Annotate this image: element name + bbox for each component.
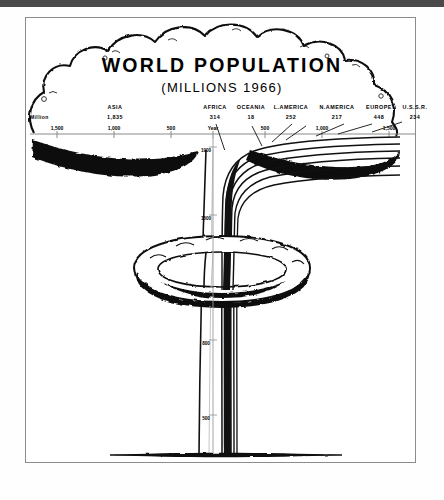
figure-subtitle: (MILLIONS 1966) bbox=[161, 80, 282, 95]
ground-line bbox=[110, 453, 342, 458]
unit-label: Million bbox=[30, 114, 49, 120]
screenshot-stage: WORLD POPULATION (MILLIONS 1966) ASIA 1,… bbox=[0, 0, 444, 500]
region-value-europe: 448 bbox=[374, 114, 385, 120]
figure-title: WORLD POPULATION bbox=[102, 54, 343, 76]
y-tick-1900: 1900 bbox=[201, 148, 212, 153]
x-tick-right-500: 500 bbox=[261, 125, 270, 131]
region-label-africa: AFRICA bbox=[203, 104, 226, 110]
x-tick-left-1500: 1,500 bbox=[51, 125, 64, 131]
region-label-europe: EUROPE bbox=[366, 104, 392, 110]
region-label-n-america: N.AMERICA bbox=[319, 104, 354, 110]
y-tick-1500: 1500 bbox=[201, 216, 212, 221]
world-population-tree-illustration: WORLD POPULATION (MILLIONS 1966) ASIA 1,… bbox=[0, 0, 444, 500]
region-label-oceania: OCEANIA bbox=[237, 104, 265, 110]
region-value-asia: 1,835 bbox=[107, 114, 123, 120]
region-label-asia: ASIA bbox=[108, 104, 123, 110]
x-tick-left-500: 500 bbox=[167, 125, 176, 131]
y-tick-800: 800 bbox=[202, 341, 210, 346]
region-value-l-america: 252 bbox=[286, 114, 297, 120]
region-value-oceania: 18 bbox=[248, 114, 255, 120]
x-tick-left-1000: 1,000 bbox=[108, 125, 121, 131]
region-value-africa: 314 bbox=[210, 114, 221, 120]
region-label-ussr: U.S.S.R. bbox=[403, 104, 428, 110]
region-value-n-america: 217 bbox=[332, 114, 343, 120]
y-tick-500: 500 bbox=[202, 416, 210, 421]
x-tick-right-1000: 1,000 bbox=[316, 125, 329, 131]
region-label-l-america: L.AMERICA bbox=[274, 104, 308, 110]
region-value-ussr: 234 bbox=[410, 114, 421, 120]
